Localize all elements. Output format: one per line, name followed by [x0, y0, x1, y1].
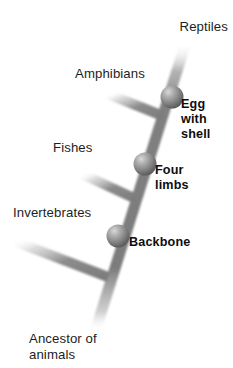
branch-amphibians [108, 94, 163, 116]
trait-line: Backbone [129, 235, 190, 250]
trait-line: limbs [155, 178, 189, 193]
root-label-ancestor: Ancestor of animals [29, 331, 139, 363]
root-label-line1: Ancestor of [29, 331, 139, 347]
branch-invertebrates [14, 241, 108, 277]
trait-line: Egg [181, 97, 210, 112]
cladogram-graphic [0, 0, 233, 368]
taxon-label-reptiles: Reptiles [180, 19, 228, 34]
trait-label-egg-with-shell: Egg with shell [181, 97, 210, 142]
taxon-label-fishes: Fishes [53, 140, 92, 155]
node-backbone [107, 225, 130, 248]
taxon-label-amphibians: Amphibians [75, 66, 145, 81]
root-label-line2: animals [29, 347, 139, 363]
trait-line: Four [155, 163, 189, 178]
branch-fishes [82, 174, 136, 199]
node-four-limbs [134, 153, 157, 176]
trait-label-four-limbs: Four limbs [155, 163, 189, 193]
cladogram-diagram: Reptiles Amphibians Fishes Invertebrates… [0, 0, 233, 368]
taxon-label-invertebrates: Invertebrates [13, 205, 91, 220]
trait-line: shell [181, 127, 210, 142]
trait-line: with [181, 112, 210, 127]
trait-label-backbone: Backbone [129, 235, 190, 250]
